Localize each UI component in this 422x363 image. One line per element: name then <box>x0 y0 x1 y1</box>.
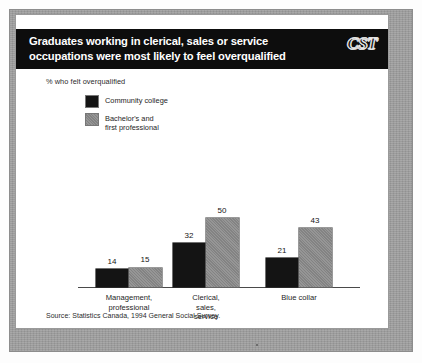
cst-logo: CST <box>347 34 377 54</box>
x-axis-baseline <box>78 287 360 288</box>
chart-title-line-2: occupations were most likely to feel ove… <box>29 49 319 64</box>
chart-title: Graduates working in clerical, sales or … <box>29 34 319 63</box>
bar-value-label: 15 <box>125 255 165 264</box>
chart-panel: Graduates working in clerical, sales or … <box>16 15 388 328</box>
source-note: Source: Statistics Canada, 1994 General … <box>46 312 220 319</box>
bar-value-label: 21 <box>262 246 302 255</box>
scanned-page: Graduates working in clerical, sales or … <box>0 0 422 363</box>
bar-community-college-management <box>96 269 129 287</box>
bar-value-label: 32 <box>169 231 209 240</box>
bar-bachelors-clerical <box>206 218 239 287</box>
chart-area: % who felt overqualified Community colle… <box>16 69 388 328</box>
chart-title-line-1: Graduates working in clerical, sales or … <box>29 34 319 49</box>
bar-value-label: 43 <box>295 216 335 225</box>
bar-community-college-bluecollar <box>266 258 299 287</box>
bar-community-college-clerical <box>173 243 206 287</box>
category-label-bluecollar: Blue collar <box>239 293 359 303</box>
title-banner: Graduates working in clerical, sales or … <box>16 29 388 69</box>
bar-bachelors-management <box>129 268 162 287</box>
bar-plot: 14 15 32 50 21 43 Management, profession… <box>16 69 388 328</box>
bar-value-label: 50 <box>202 206 242 215</box>
bar-bachelors-bluecollar <box>299 228 332 287</box>
scan-speck <box>256 344 258 346</box>
